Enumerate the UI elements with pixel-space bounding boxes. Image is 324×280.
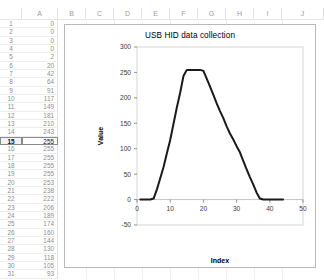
y-axis-title: Value xyxy=(97,127,104,145)
row-header-3[interactable]: 3 xyxy=(0,37,22,45)
row-header-11[interactable]: 11 xyxy=(0,103,22,111)
x-tick-label: 20 xyxy=(200,205,208,212)
y-tick-label: 300 xyxy=(120,43,131,50)
cell-a22[interactable]: 222 xyxy=(22,195,58,203)
x-axis-title: Index xyxy=(211,257,229,264)
cell-a29[interactable]: 118 xyxy=(22,254,58,262)
row-header-15[interactable]: 15 xyxy=(0,137,22,145)
cell-a26[interactable]: 160 xyxy=(22,229,58,237)
cell-a18[interactable]: 255 xyxy=(22,162,58,170)
row-header-1[interactable]: 1 xyxy=(0,20,22,28)
row-header-6[interactable]: 6 xyxy=(0,62,22,70)
row-header-24[interactable]: 24 xyxy=(0,212,22,220)
chart-plot: -5005010015020025030001020304050IndexVal… xyxy=(65,25,315,267)
row-header-4[interactable]: 4 xyxy=(0,45,22,53)
plot-frame xyxy=(137,47,303,225)
spreadsheet-grid[interactable]: ABCDEFGHIJ 12345678910111213141516171819… xyxy=(0,0,324,280)
cell-a14[interactable]: 243 xyxy=(22,128,58,136)
y-tick-label: 100 xyxy=(120,145,131,152)
y-tick-label: -50 xyxy=(121,221,131,228)
data-series-line xyxy=(140,70,283,200)
cell-a20[interactable]: 253 xyxy=(22,179,58,187)
cell-a1[interactable]: 0 xyxy=(22,20,58,28)
row-header-10[interactable]: 10 xyxy=(0,95,22,103)
cell-a5[interactable]: 2 xyxy=(22,53,58,61)
cell-a15[interactable]: 255 xyxy=(22,137,58,145)
x-tick-label: 40 xyxy=(266,205,274,212)
cell-a31[interactable]: 93 xyxy=(22,270,58,278)
cell-a7[interactable]: 42 xyxy=(22,70,58,78)
cell-a11[interactable]: 149 xyxy=(22,103,58,111)
embedded-chart-object[interactable]: USB HID data collection -500501001502002… xyxy=(64,24,316,268)
cell-a17[interactable]: 255 xyxy=(22,154,58,162)
row-header-30[interactable]: 30 xyxy=(0,262,22,270)
row-header-22[interactable]: 22 xyxy=(0,195,22,203)
x-tick-label: 10 xyxy=(167,205,175,212)
cell-a30[interactable]: 105 xyxy=(22,262,58,270)
row-header-20[interactable]: 20 xyxy=(0,179,22,187)
y-tick-label: 250 xyxy=(120,69,131,76)
row-header-23[interactable]: 23 xyxy=(0,204,22,212)
x-tick-label: 0 xyxy=(135,205,139,212)
column-a-cells[interactable]: 0000220426491117149181210243255255255255… xyxy=(22,20,58,279)
cell-a25[interactable]: 174 xyxy=(22,220,58,228)
row-header-14[interactable]: 14 xyxy=(0,128,22,136)
row-header-25[interactable]: 25 xyxy=(0,220,22,228)
row-header-26[interactable]: 26 xyxy=(0,229,22,237)
row-header-8[interactable]: 8 xyxy=(0,78,22,86)
cell-a9[interactable]: 91 xyxy=(22,87,58,95)
row-header-2[interactable]: 2 xyxy=(0,28,22,36)
x-tick-label: 30 xyxy=(233,205,241,212)
row-header-19[interactable]: 19 xyxy=(0,170,22,178)
row-header-column[interactable]: 1234567891011121314151617181920212223242… xyxy=(0,20,22,279)
row-header-18[interactable]: 18 xyxy=(0,162,22,170)
row-header-9[interactable]: 9 xyxy=(0,87,22,95)
cell-a12[interactable]: 181 xyxy=(22,112,58,120)
row-header-29[interactable]: 29 xyxy=(0,254,22,262)
row-header-27[interactable]: 27 xyxy=(0,237,22,245)
row-header-12[interactable]: 12 xyxy=(0,112,22,120)
cell-a13[interactable]: 210 xyxy=(22,120,58,128)
cell-a24[interactable]: 189 xyxy=(22,212,58,220)
y-tick-label: 50 xyxy=(124,171,132,178)
cell-a10[interactable]: 117 xyxy=(22,95,58,103)
row-header-7[interactable]: 7 xyxy=(0,70,22,78)
cell-a21[interactable]: 238 xyxy=(22,187,58,195)
y-tick-label: 0 xyxy=(127,196,131,203)
y-tick-label: 200 xyxy=(120,94,131,101)
row-header-5[interactable]: 5 xyxy=(0,53,22,61)
cell-a28[interactable]: 130 xyxy=(22,245,58,253)
cell-a2[interactable]: 0 xyxy=(22,28,58,36)
row-header-21[interactable]: 21 xyxy=(0,187,22,195)
cell-a8[interactable]: 64 xyxy=(22,78,58,86)
x-tick-label: 50 xyxy=(299,205,307,212)
y-tick-label: 150 xyxy=(120,120,131,127)
row-header-31[interactable]: 31 xyxy=(0,270,22,278)
row-header-28[interactable]: 28 xyxy=(0,245,22,253)
row-header-13[interactable]: 13 xyxy=(0,120,22,128)
cell-a3[interactable]: 0 xyxy=(22,37,58,45)
cell-a6[interactable]: 20 xyxy=(22,62,58,70)
cell-a23[interactable]: 206 xyxy=(22,204,58,212)
cell-a27[interactable]: 144 xyxy=(22,237,58,245)
cell-a4[interactable]: 0 xyxy=(22,45,58,53)
cell-a16[interactable]: 255 xyxy=(22,145,58,153)
cell-a19[interactable]: 255 xyxy=(22,170,58,178)
row-header-17[interactable]: 17 xyxy=(0,154,22,162)
row-header-16[interactable]: 16 xyxy=(0,145,22,153)
